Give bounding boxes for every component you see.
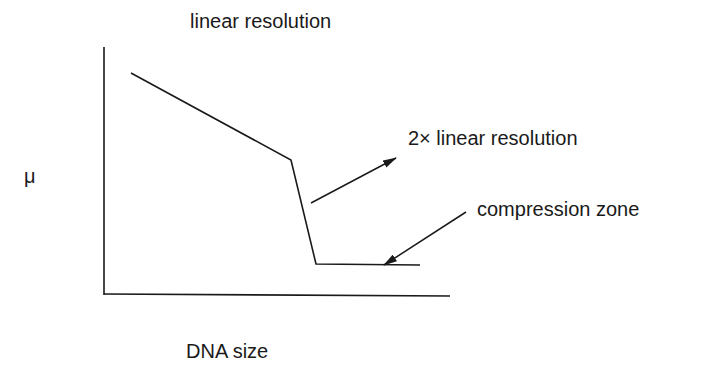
mobility-diagram: linear resolution μ DNA size 2× linear r…: [0, 0, 706, 372]
annotation-2x-linear-resolution: 2× linear resolution: [408, 127, 578, 149]
diagram-title: linear resolution: [190, 10, 331, 32]
diagram-canvas: linear resolution μ DNA size 2× linear r…: [0, 0, 706, 372]
arrow-compression-zone: [384, 212, 466, 265]
x-axis: [104, 294, 450, 296]
annotation-compression-zone: compression zone: [477, 198, 639, 220]
arrow-2x-linear-resolution: [311, 158, 396, 203]
y-axis-label: μ: [24, 165, 36, 187]
x-axis-label: DNA size: [186, 340, 268, 362]
